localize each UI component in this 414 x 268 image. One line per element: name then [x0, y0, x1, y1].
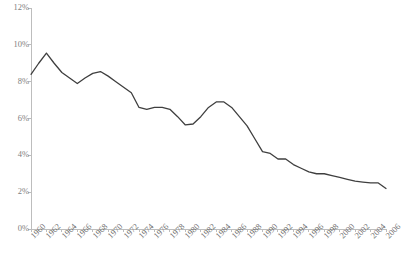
- x-axis-tick-labels: 1960196219641966196819701972197419761978…: [0, 0, 414, 268]
- x-axis-tick-label: 2006: [384, 222, 402, 240]
- line-chart: 12%10%8%6%4%2%0% 19601962196419661968197…: [0, 0, 414, 268]
